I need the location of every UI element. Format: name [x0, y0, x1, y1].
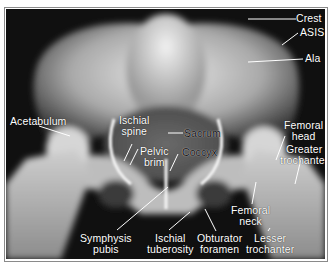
label-coccyx: Coccyx — [182, 147, 217, 158]
label-sacrum: Sacrum — [184, 128, 221, 139]
label-asis: ASIS — [300, 27, 324, 38]
label-pelvic-brim: Pelvic brim — [140, 146, 169, 168]
label-greater-trochanter: Greater trochanter — [280, 144, 325, 166]
label-obturator-foramen: Obturator foramen — [197, 233, 242, 255]
xray-illustration — [6, 9, 325, 259]
pelvis-xray-image: Crest ASIS Ala Acetabulum Ischial spine … — [6, 9, 325, 259]
label-femoral-head: Femoral head — [284, 120, 323, 142]
label-symphysis-pubis: Symphysis pubis — [80, 233, 132, 255]
label-ischial-tuberosity: Ischial tuberosity — [147, 233, 194, 255]
label-crest: Crest — [296, 13, 322, 24]
label-acetabulum: Acetabulum — [10, 116, 66, 127]
label-lesser-trochanter: Lesser trochanter — [246, 233, 294, 255]
label-ischial-spine: Ischial spine — [119, 115, 149, 137]
label-femoral-neck: Femoral neck — [231, 205, 270, 227]
label-ala: Ala — [305, 53, 320, 64]
